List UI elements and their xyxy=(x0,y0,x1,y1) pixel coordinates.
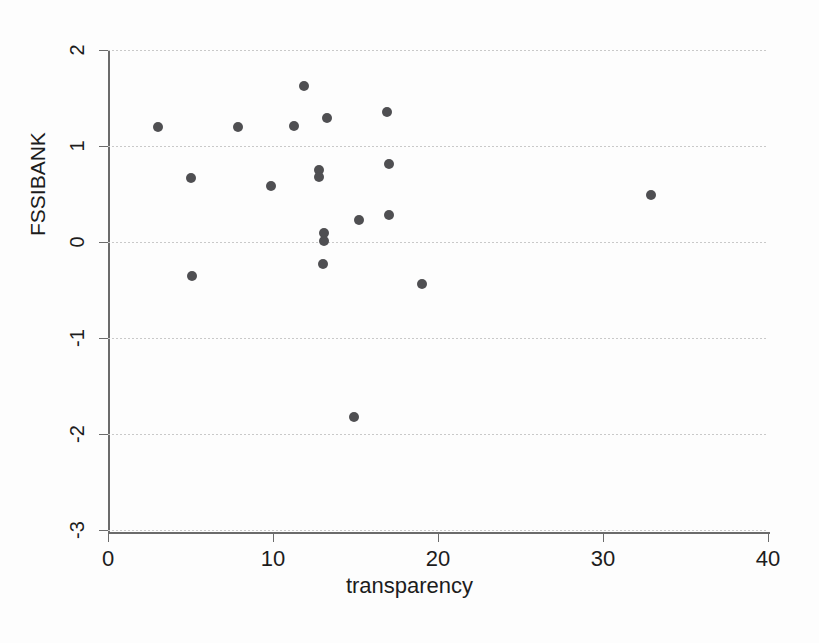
gridline xyxy=(108,338,768,339)
x-tick-label: 0 xyxy=(78,546,138,572)
y-tick-mark xyxy=(99,434,108,435)
x-tick-mark xyxy=(768,532,769,542)
data-point xyxy=(382,107,392,117)
gridline xyxy=(108,146,768,147)
data-point xyxy=(186,173,196,183)
y-tick-label: 0 xyxy=(67,227,87,257)
data-point xyxy=(349,412,359,422)
x-axis-line xyxy=(108,532,770,534)
y-axis-label: FSSIBANK xyxy=(26,132,50,236)
gridline xyxy=(108,242,768,243)
x-tick-mark xyxy=(273,532,274,542)
data-point xyxy=(417,279,427,289)
y-tick-label: -3 xyxy=(67,515,87,545)
y-tick-label: 1 xyxy=(67,131,87,161)
data-point xyxy=(384,159,394,169)
data-point xyxy=(322,113,332,123)
y-tick-mark xyxy=(99,146,108,147)
y-tick-label: -2 xyxy=(67,419,87,449)
x-tick-label: 20 xyxy=(408,546,468,572)
data-point xyxy=(354,215,364,225)
scatter-plot-figure: 210-1-2-3 010203040 FSSIBANK transparenc… xyxy=(0,0,819,643)
x-tick-label: 30 xyxy=(573,546,633,572)
y-tick-mark xyxy=(99,530,108,531)
y-tick-label: 2 xyxy=(67,35,87,65)
data-point xyxy=(319,236,329,246)
data-point xyxy=(233,122,243,132)
y-tick-mark xyxy=(99,242,108,243)
plot-area: 210-1-2-3 010203040 xyxy=(108,50,768,530)
y-tick-mark xyxy=(99,338,108,339)
gridline xyxy=(108,434,768,435)
x-tick-label: 40 xyxy=(738,546,798,572)
data-point xyxy=(646,190,656,200)
x-tick-label: 10 xyxy=(243,546,303,572)
x-tick-mark xyxy=(438,532,439,542)
data-point xyxy=(318,259,328,269)
data-point xyxy=(153,122,163,132)
data-point xyxy=(289,121,299,131)
gridline xyxy=(108,530,768,531)
y-tick-label: -1 xyxy=(67,323,87,353)
x-tick-mark xyxy=(108,532,109,542)
x-tick-mark xyxy=(603,532,604,542)
gridline xyxy=(108,50,768,51)
data-point xyxy=(187,271,197,281)
data-point xyxy=(384,210,394,220)
data-point xyxy=(266,181,276,191)
y-tick-mark xyxy=(99,50,108,51)
data-point xyxy=(299,81,309,91)
data-point xyxy=(314,172,324,182)
x-axis-label: transparency xyxy=(0,573,819,599)
